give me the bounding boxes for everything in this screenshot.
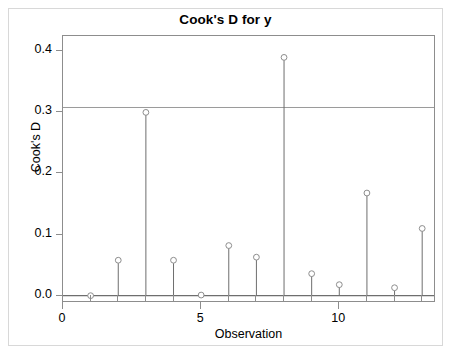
x-minor-tick-mark xyxy=(283,295,284,302)
data-point-marker[interactable] xyxy=(198,292,204,298)
data-point-marker[interactable] xyxy=(364,190,370,196)
data-point-marker[interactable] xyxy=(419,226,425,232)
x-tick-mark xyxy=(200,302,201,309)
x-minor-tick-mark xyxy=(394,295,395,302)
x-tick-mark xyxy=(62,302,63,309)
x-tick-label: 5 xyxy=(180,312,220,325)
x-minor-tick-mark xyxy=(421,295,422,302)
x-axis-label: Observation xyxy=(62,327,435,341)
data-point-marker[interactable] xyxy=(254,254,260,260)
x-tick-mark xyxy=(338,302,339,309)
data-point-marker[interactable] xyxy=(143,109,149,115)
x-tick-label: 10 xyxy=(318,312,358,325)
x-tick-label: 0 xyxy=(42,312,82,325)
chart-title: Cook's D for y xyxy=(0,12,451,27)
x-minor-tick-mark xyxy=(145,295,146,302)
x-minor-tick-mark xyxy=(117,295,118,302)
data-point-marker[interactable] xyxy=(392,285,398,291)
y-tick-label: 0.3 xyxy=(16,104,52,117)
data-point-marker[interactable] xyxy=(226,243,232,249)
x-minor-tick-mark xyxy=(311,295,312,302)
y-tick-label: 0.2 xyxy=(16,165,52,178)
plot-svg xyxy=(63,36,435,302)
x-minor-tick-mark xyxy=(90,295,91,302)
y-tick-label: 0.0 xyxy=(16,288,52,301)
y-tick-label: 0.4 xyxy=(16,43,52,56)
x-minor-tick-mark xyxy=(255,295,256,302)
data-point-marker[interactable] xyxy=(171,257,177,263)
data-point-marker[interactable] xyxy=(281,54,287,60)
x-minor-tick-mark xyxy=(173,295,174,302)
chart-figure: Cook's D for y Cook's D 0.00.10.20.30.4 … xyxy=(0,0,451,356)
data-point-marker[interactable] xyxy=(88,293,94,299)
plot-panel xyxy=(62,35,435,302)
data-point-marker[interactable] xyxy=(336,282,342,288)
stem-group xyxy=(118,57,422,295)
data-point-marker[interactable] xyxy=(309,271,315,277)
y-axis-label: Cook's D xyxy=(29,67,43,227)
x-minor-tick-mark xyxy=(366,295,367,302)
x-minor-tick-mark xyxy=(228,295,229,302)
y-tick-label: 0.1 xyxy=(16,227,52,240)
data-point-marker[interactable] xyxy=(115,257,121,263)
